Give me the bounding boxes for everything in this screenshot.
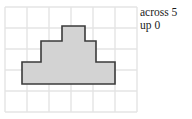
label-across: across 5 — [140, 6, 192, 19]
stepped-pyramid-shape — [22, 26, 115, 84]
figure-root: across 5 up 0 — [0, 0, 192, 119]
measurement-labels: across 5 up 0 — [140, 6, 192, 32]
label-up: up 0 — [140, 19, 192, 32]
